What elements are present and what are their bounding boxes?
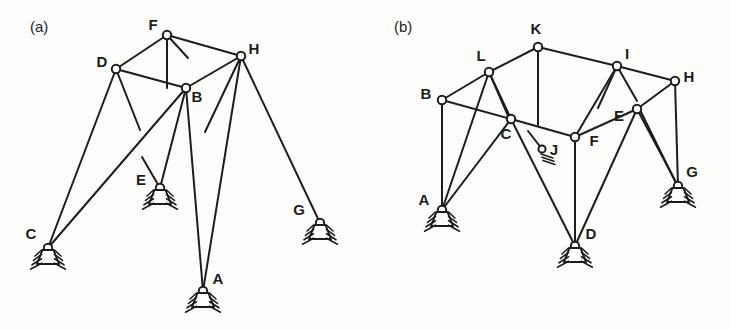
members-a bbox=[48, 35, 320, 291]
node-label-a-E: E bbox=[136, 171, 146, 188]
member-b-IF[interactable] bbox=[575, 66, 617, 137]
member-b-LA[interactable] bbox=[442, 72, 489, 210]
member-b-LK[interactable] bbox=[489, 47, 538, 72]
panel-caption-b: (b) bbox=[394, 18, 412, 35]
stub-b-L-short-diagonal bbox=[489, 72, 509, 118]
member-b-HG[interactable] bbox=[675, 81, 678, 186]
node-label-b-J: J bbox=[550, 141, 558, 158]
panel-b-group bbox=[425, 43, 696, 267]
member-b-EH[interactable] bbox=[637, 81, 675, 109]
member-a-FH[interactable] bbox=[167, 35, 241, 56]
node-label-b-F: F bbox=[589, 132, 598, 149]
node-label-a-D: D bbox=[97, 53, 108, 70]
members-b bbox=[442, 47, 678, 246]
member-a-DB[interactable] bbox=[116, 69, 186, 88]
joint-b-L[interactable] bbox=[485, 68, 493, 76]
node-label-a-B: B bbox=[192, 88, 203, 105]
joint-b-F[interactable] bbox=[571, 133, 579, 141]
joint-b-B[interactable] bbox=[438, 96, 446, 104]
node-label-a-A: A bbox=[213, 270, 224, 287]
joint-a-F[interactable] bbox=[163, 31, 171, 39]
node-label-b-B: B bbox=[421, 85, 432, 102]
member-a-HA[interactable] bbox=[203, 56, 241, 291]
node-label-b-I: I bbox=[625, 45, 629, 62]
node-label-a-H: H bbox=[249, 40, 260, 57]
joint-a-D[interactable] bbox=[112, 65, 120, 73]
member-a-DF[interactable] bbox=[116, 35, 167, 69]
joint-b-K[interactable] bbox=[534, 43, 542, 51]
stubs-a bbox=[116, 35, 241, 188]
node-label-b-D: D bbox=[586, 225, 597, 242]
member-b-CF[interactable] bbox=[511, 119, 575, 137]
panel-a-group bbox=[31, 31, 338, 312]
labels-group: FHDBECGA(a)KILHBECFJGAD(b) bbox=[26, 16, 698, 287]
joint-b-C[interactable] bbox=[507, 115, 515, 123]
stub-b-I-short-diagonal bbox=[598, 66, 617, 108]
joint-b-J[interactable] bbox=[538, 145, 545, 152]
joint-b-I[interactable] bbox=[613, 62, 621, 70]
joint-a-H[interactable] bbox=[237, 52, 245, 60]
member-a-BA[interactable] bbox=[186, 88, 203, 291]
member-b-CD[interactable] bbox=[511, 119, 575, 246]
node-label-b-A: A bbox=[419, 191, 430, 208]
node-label-b-H: H bbox=[684, 68, 695, 85]
member-b-ED[interactable] bbox=[575, 109, 637, 246]
truss-diagram-canvas: FHDBECGA(a)KILHBECFJGAD(b) bbox=[0, 0, 731, 330]
node-label-a-C: C bbox=[26, 225, 37, 242]
node-label-b-G: G bbox=[686, 163, 698, 180]
node-label-a-G: G bbox=[293, 201, 305, 218]
joint-b-E[interactable] bbox=[633, 105, 641, 113]
node-label-b-K: K bbox=[531, 20, 542, 37]
node-label-b-L: L bbox=[476, 47, 485, 64]
figure-root: FHDBECGA(a)KILHBECFJGAD(b) (a) (b) bbox=[0, 0, 731, 330]
stub-a-D-short-diagonal bbox=[116, 69, 140, 130]
joint-b-H[interactable] bbox=[671, 77, 679, 85]
member-b-KI[interactable] bbox=[538, 47, 617, 66]
node-label-b-E: E bbox=[614, 107, 624, 124]
member-b-EG[interactable] bbox=[640, 110, 676, 183]
node-label-a-F: F bbox=[148, 16, 157, 33]
member-a-DC[interactable] bbox=[48, 69, 116, 248]
member-b-IH[interactable] bbox=[617, 66, 675, 81]
node-label-b-C: C bbox=[501, 125, 512, 142]
member-a-HG[interactable] bbox=[241, 56, 320, 223]
panel-caption-a: (a) bbox=[30, 18, 48, 35]
joint-a-B[interactable] bbox=[182, 84, 190, 92]
